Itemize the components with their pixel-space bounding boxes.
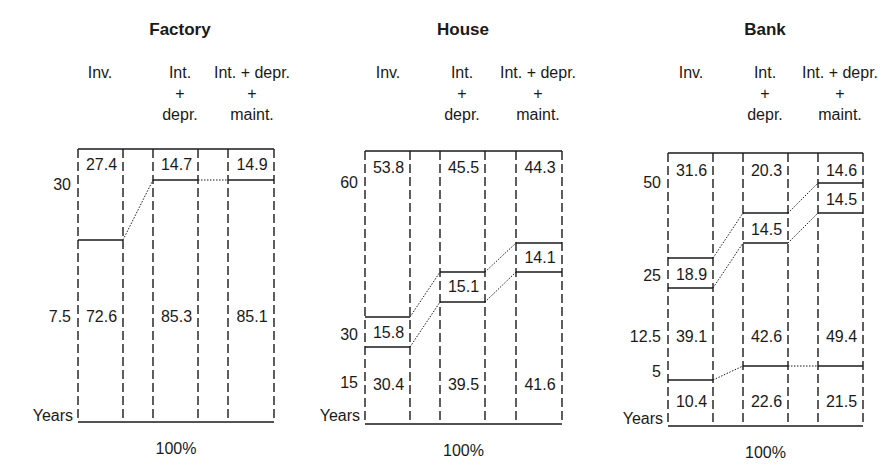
connector-line — [485, 272, 516, 302]
y-axis-label: Years — [320, 407, 360, 424]
segment-value: 21.5 — [826, 393, 857, 410]
segment-value: 45.5 — [448, 159, 479, 176]
column-header: Int. + depr. — [802, 64, 878, 81]
segment-value: 72.6 — [86, 308, 117, 325]
column-header: maint. — [230, 106, 274, 123]
segment-value: 41.6 — [524, 376, 555, 393]
y-tick-label: 7.5 — [49, 308, 71, 325]
connector-line — [410, 272, 440, 317]
segment-value: 14.6 — [826, 162, 857, 179]
segment-value: 15.1 — [448, 278, 479, 295]
segment-value: 15.8 — [373, 324, 404, 341]
column-header: depr. — [162, 106, 198, 123]
connector-line — [410, 302, 440, 347]
y-tick-label: 12.5 — [630, 328, 661, 345]
column-header: Inv. — [376, 64, 401, 81]
column-header: depr. — [444, 106, 480, 123]
connector-line — [713, 213, 743, 258]
segment-value: 31.6 — [676, 162, 707, 179]
chart-canvas: FactoryInv.Int.+depr.Int. + depr.+maint.… — [0, 0, 890, 473]
segment-value: 14.5 — [751, 221, 782, 238]
segment-value: 18.9 — [676, 266, 707, 283]
segment-value: 14.9 — [236, 156, 267, 173]
panel-title: House — [437, 20, 489, 39]
segment-value: 10.4 — [676, 393, 707, 410]
column-header: + — [760, 85, 769, 102]
segment-value: 39.1 — [676, 328, 707, 345]
panel-house: HouseInv.Int.+depr.Int. + depr.+maint.53… — [320, 20, 576, 459]
column-header: Int. — [754, 64, 776, 81]
column-header: Int. + depr. — [500, 64, 576, 81]
segment-value: 53.8 — [373, 159, 404, 176]
connector-line — [713, 366, 743, 380]
segment-value: 30.4 — [373, 376, 404, 393]
column-header: + — [457, 85, 466, 102]
segment-value: 20.3 — [751, 162, 782, 179]
segment-value: 14.1 — [524, 249, 555, 266]
y-tick-label: 60 — [340, 174, 358, 191]
segment-value: 42.6 — [751, 328, 782, 345]
segment-value: 49.4 — [826, 328, 857, 345]
segment-value: 85.1 — [236, 308, 267, 325]
panel-factory: FactoryInv.Int.+depr.Int. + depr.+maint.… — [33, 20, 290, 457]
x-axis-label: 100% — [443, 442, 484, 459]
column-header: depr. — [747, 106, 783, 123]
connector-line — [713, 243, 743, 288]
y-axis-label: Years — [623, 410, 663, 427]
connector-line — [485, 243, 516, 272]
column-header: maint. — [516, 106, 560, 123]
panel-title: Factory — [149, 20, 211, 39]
chart-figure: FactoryInv.Int.+depr.Int. + depr.+maint.… — [0, 0, 890, 473]
segment-value: 27.4 — [86, 156, 117, 173]
column-header: + — [835, 85, 844, 102]
segment-value: 14.7 — [161, 156, 192, 173]
y-tick-label: 25 — [643, 267, 661, 284]
y-axis-label: Years — [33, 407, 73, 424]
y-tick-label: 30 — [340, 326, 358, 343]
column-header: Int. — [169, 64, 191, 81]
segment-value: 39.5 — [448, 376, 479, 393]
x-axis-label: 100% — [156, 440, 197, 457]
y-tick-label: 50 — [643, 174, 661, 191]
column-header: Inv. — [679, 64, 704, 81]
column-header: + — [175, 85, 184, 102]
segment-value: 22.6 — [751, 393, 782, 410]
y-tick-label: 15 — [340, 374, 358, 391]
column-header: + — [247, 85, 256, 102]
column-header: Int. — [451, 64, 473, 81]
connector-line — [123, 180, 153, 240]
column-header: maint. — [818, 106, 862, 123]
column-header: Int. + depr. — [214, 64, 290, 81]
connector-line — [788, 213, 818, 243]
x-axis-label: 100% — [745, 444, 786, 461]
column-header: + — [533, 85, 542, 102]
segment-value: 85.3 — [161, 308, 192, 325]
connector-line — [788, 183, 818, 213]
y-tick-label: 5 — [652, 363, 661, 380]
column-header: Inv. — [88, 64, 113, 81]
segment-value: 14.5 — [826, 191, 857, 208]
segment-value: 44.3 — [524, 159, 555, 176]
panel-bank: BankInv.Int.+depr.Int. + depr.+maint.31.… — [623, 20, 878, 461]
y-tick-label: 30 — [53, 176, 71, 193]
panel-title: Bank — [744, 20, 786, 39]
